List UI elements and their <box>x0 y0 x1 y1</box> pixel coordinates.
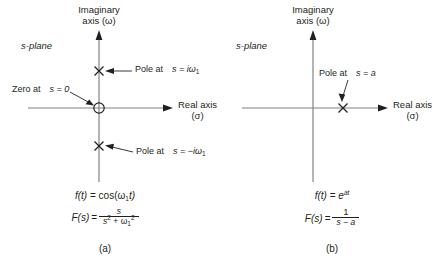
time-function-b: f(t) = eat <box>227 190 437 202</box>
real-axis-title-b: Real axis (σ) <box>393 100 432 122</box>
imaginary-axis-arrowhead-a <box>96 30 103 40</box>
laplace-function-eq-b: = <box>325 213 331 225</box>
s-plane-label-b: s-plane <box>236 41 267 52</box>
annotation-pole-real-b: Pole at s = a <box>319 68 376 78</box>
time-function-lhs-b: f(t) <box>315 190 327 201</box>
panel-caption-a: (a) <box>0 243 210 255</box>
leader-line-pole-real-b <box>343 80 348 96</box>
laplace-function-lhs-b: F(s) <box>305 213 323 224</box>
panel-caption-b: (b) <box>227 243 437 255</box>
imaginary-axis-title-line2-b: axis (ω) <box>277 16 349 27</box>
panel-b-axes <box>242 30 388 182</box>
annotation-zero-origin-expr-a: s = 0 <box>50 84 70 94</box>
laplace-function-den-sup-a: 2 <box>107 214 111 221</box>
s-plane-label-a: s-plane <box>21 41 52 52</box>
real-axis-title-a: Real axis (σ) <box>178 100 217 122</box>
annotation-pole-upper-expr-a: s = iω <box>172 64 196 74</box>
figure-root: Imaginary axis (ω) s-plane Real axis (σ)… <box>0 0 437 275</box>
leader-line-pole-lower-a <box>112 147 133 152</box>
annotation-pole-lower-sub-a: 1 <box>202 150 206 157</box>
annotation-pole-upper-sub-a: 1 <box>196 68 200 75</box>
annotation-pole-real-prefix-b: Pole at <box>319 68 347 78</box>
imaginary-axis-arrowhead-b <box>310 30 317 40</box>
annotation-pole-real-expr-b: s = a <box>356 68 376 78</box>
laplace-function-numerator-b: 1 <box>343 206 348 217</box>
imaginary-axis-title-line2-a: axis (ω) <box>63 16 135 27</box>
imaginary-axis-title-a: Imaginary axis (ω) <box>63 5 135 27</box>
panel-a-axes <box>28 30 173 182</box>
laplace-function-den-sup2-a: 2 <box>131 214 135 221</box>
leader-arrowhead-pole-lower-a <box>105 144 114 150</box>
time-function-a: f(t) = cos(ω1t) <box>0 190 210 202</box>
laplace-function-lhs-a: F(s) <box>71 212 89 223</box>
real-axis-arrowhead-b <box>378 105 388 112</box>
time-function-rhs-sub-a: 1 <box>125 195 129 202</box>
laplace-function-b: F(s) = 1 s − a <box>227 208 437 229</box>
panel-a-leader-lines <box>70 68 133 152</box>
time-function-rhs-a: cos(ω <box>99 190 126 201</box>
real-axis-title-line2-a: (σ) <box>178 111 217 122</box>
time-function-eq-b: = <box>330 190 336 201</box>
figure-vector-artwork <box>0 0 437 275</box>
real-axis-arrowhead-a <box>163 105 173 112</box>
time-function-rhs-tail-a: t) <box>129 190 135 201</box>
imaginary-axis-title-b: Imaginary axis (ω) <box>277 5 349 27</box>
time-function-rhs-sup-b: at <box>344 189 349 196</box>
leader-arrowhead-zero-origin-a <box>86 99 95 105</box>
leader-line-zero-origin-a <box>70 92 90 103</box>
leader-arrowhead-pole-real-b <box>339 94 346 102</box>
leader-arrowhead-pole-upper-a <box>105 68 114 74</box>
panel-b-leader-lines <box>339 80 348 102</box>
annotation-pole-lower-prefix-a: Pole at <box>136 146 164 156</box>
laplace-function-fraction-b: 1 s − a <box>332 207 359 228</box>
annotation-pole-upper-a: Pole at s = iω1 <box>135 64 199 74</box>
annotation-pole-lower-expr-a: s = −iω <box>173 146 202 156</box>
time-function-lhs-a: f(t) <box>75 190 87 201</box>
annotation-zero-origin-prefix-a: Zero at <box>12 84 41 94</box>
annotation-pole-lower-a: Pole at s = −iω1 <box>136 146 206 156</box>
laplace-function-a: F(s) = s s2 + ω12 <box>0 208 210 228</box>
laplace-function-numerator-a: s <box>117 206 121 216</box>
annotation-pole-upper-prefix-a: Pole at <box>135 64 163 74</box>
time-function-eq-a: = <box>90 190 96 201</box>
laplace-function-eq-a: = <box>91 212 97 224</box>
laplace-function-denominator-b: s − a <box>336 217 355 227</box>
annotation-zero-origin-a: Zero at s = 0 <box>12 84 69 94</box>
real-axis-title-line2-b: (σ) <box>393 111 432 122</box>
laplace-function-fraction-a: s s2 + ω12 <box>99 207 138 227</box>
laplace-function-den-plus-a: + ω <box>113 216 127 226</box>
